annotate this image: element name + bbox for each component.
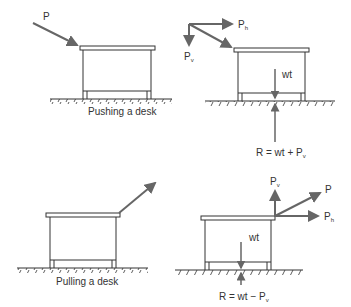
reaction-label: R = wt − P (219, 291, 266, 302)
pull-force-arrow (119, 183, 155, 213)
diagram-pulling-components: P Ph Pv wt R = wt − Pv (175, 176, 334, 303)
ground (205, 101, 335, 106)
svg-text:Ph: Ph (238, 19, 248, 31)
svg-text:Pv: Pv (270, 176, 280, 188)
reaction-label: R = wt + P (256, 147, 303, 158)
desk (234, 48, 309, 101)
pull-force-arrow (275, 193, 320, 216)
svg-text:R = wt + Pv: R = wt + Pv (256, 147, 306, 159)
weight-label: wt (281, 69, 292, 80)
diagram-pushing-components: Ph Pv wt R = wt + Pv (184, 19, 335, 159)
weight-label: wt (248, 232, 259, 243)
diagram-pulling-desk: Pulling a desk (17, 183, 155, 287)
push-force-label: P (43, 11, 50, 22)
svg-text:Pv: Pv (184, 51, 194, 63)
desk (201, 216, 275, 270)
ground (50, 99, 172, 104)
desk (46, 213, 120, 268)
svg-text:Ph: Ph (324, 211, 334, 223)
diagram-pushing-desk: P Pushing a desk (33, 11, 172, 117)
p-label: P (325, 184, 332, 195)
ground (17, 268, 148, 273)
ground (175, 270, 303, 275)
push-force-arrow (189, 24, 231, 47)
caption-pulling: Pulling a desk (56, 276, 119, 287)
desk (80, 46, 155, 99)
push-force-arrow (33, 23, 77, 45)
force-diagrams: P Pushing a desk Ph Pv wt R = wt + Pv (0, 0, 351, 307)
caption-pushing: Pushing a desk (88, 106, 157, 117)
svg-text:R = wt − Pv: R = wt − Pv (219, 291, 269, 303)
